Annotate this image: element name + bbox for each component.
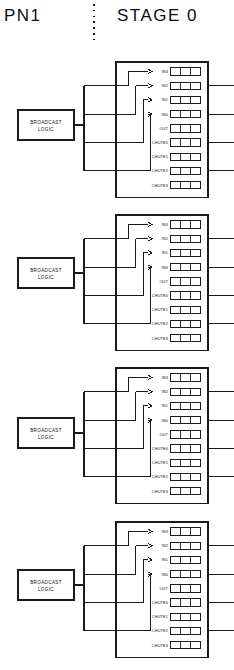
broadcast-logic-label: BROADCASTLOGIC	[18, 119, 74, 133]
register-IN3	[170, 68, 200, 75]
register-box	[170, 459, 200, 466]
broadcast-logic-label-line2: LOGIC	[18, 586, 74, 593]
register-CHUTE1	[170, 459, 200, 466]
register-box	[170, 139, 200, 146]
row-label-chute1: CHUTE1	[128, 154, 168, 159]
register-IN0	[170, 416, 200, 423]
register-CHUTE0	[170, 292, 200, 299]
register-IN2	[170, 542, 200, 549]
row-label-chute1: CHUTE1	[128, 460, 168, 465]
row-label-in2: IN2	[128, 236, 168, 241]
broadcast-logic-label-line1: BROADCAST	[18, 267, 74, 274]
register-box	[170, 599, 200, 606]
register-CHUTE3	[170, 181, 200, 188]
register-box	[170, 641, 200, 648]
register-box	[170, 613, 200, 620]
register-box	[170, 374, 200, 381]
row-label-chute0: CHUTE0	[128, 446, 168, 451]
row-label-in2: IN2	[128, 389, 168, 394]
register-box	[170, 221, 200, 228]
row-label-in2: IN2	[128, 83, 168, 88]
register-OUT	[170, 125, 200, 132]
register-box	[170, 542, 200, 549]
row-label-chute2: CHUTE2	[128, 474, 168, 479]
row-label-out: OUT	[128, 586, 168, 591]
module-layer	[18, 62, 234, 658]
diagram-root: PN1 STAGE 0 BROADCASTLOGICBROADCASTLOGIC…	[0, 0, 234, 670]
row-label-in0: IN0	[128, 265, 168, 270]
row-label-chute3: CHUTE3	[128, 489, 168, 494]
row-label-in0: IN0	[128, 572, 168, 577]
register-IN2	[170, 388, 200, 395]
register-CHUTE3	[170, 334, 200, 341]
row-label-in1: IN1	[128, 250, 168, 255]
register-OUT	[170, 585, 200, 592]
register-box	[170, 556, 200, 563]
register-box	[170, 292, 200, 299]
register-OUT	[170, 431, 200, 438]
register-CHUTE0	[170, 445, 200, 452]
register-CHUTE2	[170, 320, 200, 327]
diagram-canvas	[0, 0, 234, 670]
row-label-in1: IN1	[128, 403, 168, 408]
broadcast-logic-label-line2: LOGIC	[18, 126, 74, 133]
register-CHUTE1	[170, 153, 200, 160]
row-label-in2: IN2	[128, 543, 168, 548]
register-box	[170, 68, 200, 75]
broadcast-logic-label: BROADCASTLOGIC	[18, 579, 74, 593]
register-box	[170, 82, 200, 89]
register-box	[170, 416, 200, 423]
register-box	[170, 585, 200, 592]
broadcast-logic-label: BROADCASTLOGIC	[18, 427, 74, 441]
register-box	[170, 627, 200, 634]
row-label-out: OUT	[128, 432, 168, 437]
register-box	[170, 153, 200, 160]
register-box	[170, 235, 200, 242]
wire-layer	[74, 86, 116, 631]
register-IN2	[170, 82, 200, 89]
register-IN0	[170, 263, 200, 270]
row-label-chute2: CHUTE2	[128, 628, 168, 633]
register-IN2	[170, 235, 200, 242]
register-CHUTE2	[170, 627, 200, 634]
row-label-in0: IN0	[128, 112, 168, 117]
register-CHUTE1	[170, 613, 200, 620]
register-box	[170, 473, 200, 480]
row-label-in3: IN3	[128, 529, 168, 534]
row-label-in1: IN1	[128, 97, 168, 102]
register-IN1	[170, 96, 200, 103]
row-label-chute0: CHUTE0	[128, 140, 168, 145]
register-box	[170, 110, 200, 117]
register-box	[170, 96, 200, 103]
row-label-in3: IN3	[128, 69, 168, 74]
register-OUT	[170, 278, 200, 285]
row-label-chute1: CHUTE1	[128, 307, 168, 312]
row-label-out: OUT	[128, 126, 168, 131]
row-label-in3: IN3	[128, 222, 168, 227]
register-box	[170, 570, 200, 577]
row-label-chute2: CHUTE2	[128, 168, 168, 173]
row-label-in0: IN0	[128, 418, 168, 423]
row-label-in1: IN1	[128, 557, 168, 562]
register-box	[170, 278, 200, 285]
register-box	[170, 181, 200, 188]
register-CHUTE0	[170, 139, 200, 146]
register-IN0	[170, 570, 200, 577]
register-box	[170, 320, 200, 327]
broadcast-logic-label-line1: BROADCAST	[18, 579, 74, 586]
broadcast-logic-label-line2: LOGIC	[18, 434, 74, 441]
register-box	[170, 487, 200, 494]
register-IN3	[170, 374, 200, 381]
register-IN1	[170, 402, 200, 409]
row-label-chute3: CHUTE3	[128, 336, 168, 341]
broadcast-logic-label: BROADCASTLOGIC	[18, 267, 74, 281]
row-label-chute3: CHUTE3	[128, 643, 168, 648]
row-label-in3: IN3	[128, 375, 168, 380]
register-CHUTE3	[170, 487, 200, 494]
row-label-chute2: CHUTE2	[128, 321, 168, 326]
row-label-out: OUT	[128, 279, 168, 284]
row-label-chute3: CHUTE3	[128, 183, 168, 188]
register-CHUTE3	[170, 641, 200, 648]
broadcast-logic-label-line2: LOGIC	[18, 274, 74, 281]
register-CHUTE2	[170, 473, 200, 480]
